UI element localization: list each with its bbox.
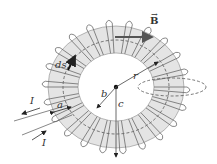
b-vector-bar: → <box>151 11 158 19</box>
label-current-in: I <box>42 138 46 148</box>
label-r: r <box>133 71 138 81</box>
toroid-diagram: B → ds r b c a I I <box>0 0 217 164</box>
current-out-arrow <box>22 108 40 114</box>
label-a: a <box>57 100 63 110</box>
label-c: c <box>118 99 124 109</box>
label-ds: ds <box>55 60 67 70</box>
label-current-out: I <box>30 96 34 106</box>
label-b: b <box>101 89 107 99</box>
toroid-svg <box>0 0 217 164</box>
